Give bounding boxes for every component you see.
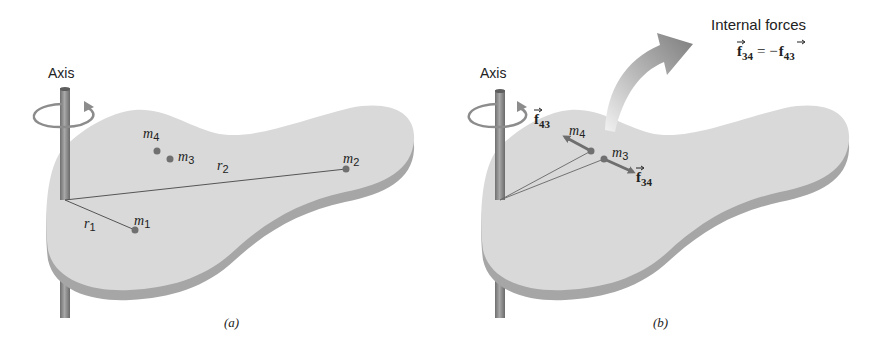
axis-label: Axis bbox=[480, 65, 506, 81]
panel-a: Axis m1 m2 m3 m4 r1 r2 (a) bbox=[34, 65, 414, 330]
rigid-body-plate bbox=[46, 106, 414, 301]
caption-b: (b) bbox=[653, 315, 668, 330]
force-label-f43: f43 bbox=[534, 108, 551, 130]
mass-point-m3 bbox=[167, 156, 174, 163]
rigid-body-plate bbox=[481, 106, 849, 301]
mass-point-m2 bbox=[343, 166, 350, 173]
svg-text:f34= −f43: f34= −f43 bbox=[737, 43, 795, 62]
rigid-body-rotation-figure: Axis m1 m2 m3 m4 r1 r2 (a) Axis m4 m3 bbox=[0, 0, 883, 356]
caption-a: (a) bbox=[224, 315, 239, 330]
mass-point-m4 bbox=[154, 148, 161, 155]
panel-b: Axis m4 m3 f43 f34 Internal forces f34= … bbox=[469, 16, 849, 330]
callout-title: Internal forces bbox=[711, 16, 806, 33]
axis-pole bbox=[495, 90, 505, 200]
callout-equation: f34= −f43 bbox=[737, 40, 805, 62]
mass-point-m4 bbox=[588, 148, 595, 155]
mass-point-m3 bbox=[601, 156, 608, 163]
axis-label: Axis bbox=[48, 65, 74, 81]
callout-arrow-icon bbox=[605, 33, 693, 132]
